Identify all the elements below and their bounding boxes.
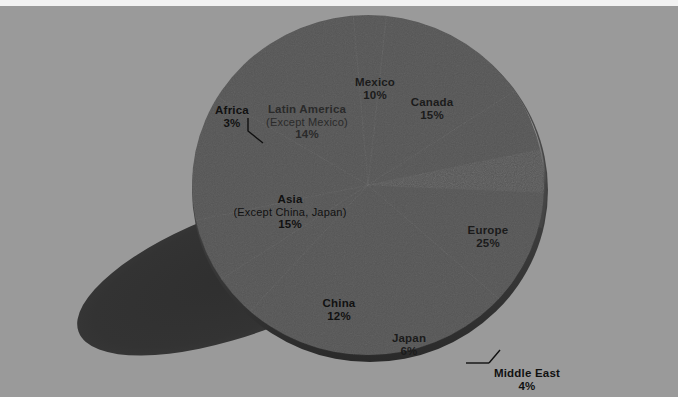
pie-label-percent-asia: 15% bbox=[210, 218, 370, 231]
pie-label-middle-east: Middle East4% bbox=[447, 367, 607, 393]
pie-label-percent-japan: 6% bbox=[329, 345, 489, 358]
pie-label-percent-mexico: 10% bbox=[295, 89, 455, 102]
pie-label-latin-america: Latin America(Except Mexico)14% bbox=[227, 103, 387, 141]
pie-label-china: China12% bbox=[259, 297, 419, 323]
pie-label-name-asia: Asia bbox=[210, 193, 370, 206]
pie-label-name-europe: Europe bbox=[408, 224, 568, 237]
pie-label-name-latin-america: Latin America bbox=[227, 103, 387, 116]
pie-label-percent-middle-east: 4% bbox=[447, 380, 607, 393]
pie-label-mexico: Mexico10% bbox=[295, 76, 455, 102]
pie-label-percent-china: 12% bbox=[259, 310, 419, 323]
pie-label-europe: Europe25% bbox=[408, 224, 568, 250]
pie-chart-figure: Canada15%Europe25%Middle East4%Japan6%Ch… bbox=[0, 0, 678, 397]
middle-east-leader-line-2 bbox=[489, 350, 500, 363]
pie-label-sub-asia: (Except China, Japan) bbox=[210, 206, 370, 218]
pie-label-japan: Japan6% bbox=[329, 332, 489, 358]
pie-label-name-middle-east: Middle East bbox=[447, 367, 607, 380]
pie-label-asia: Asia(Except China, Japan)15% bbox=[210, 193, 370, 231]
pie-label-name-mexico: Mexico bbox=[295, 76, 455, 89]
pie-label-sub-latin-america: (Except Mexico) bbox=[227, 116, 387, 128]
pie-label-name-japan: Japan bbox=[329, 332, 489, 345]
pie-label-percent-latin-america: 14% bbox=[227, 128, 387, 141]
pie-label-percent-europe: 25% bbox=[408, 237, 568, 250]
pie-label-name-china: China bbox=[259, 297, 419, 310]
